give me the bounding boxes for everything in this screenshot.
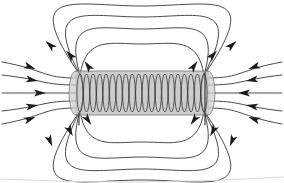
- coil-cap-left: [69, 71, 83, 115]
- field-diagram-canvas: [0, 0, 284, 183]
- solenoid-field-figure: [0, 0, 284, 183]
- coil-cap-right: [201, 71, 215, 115]
